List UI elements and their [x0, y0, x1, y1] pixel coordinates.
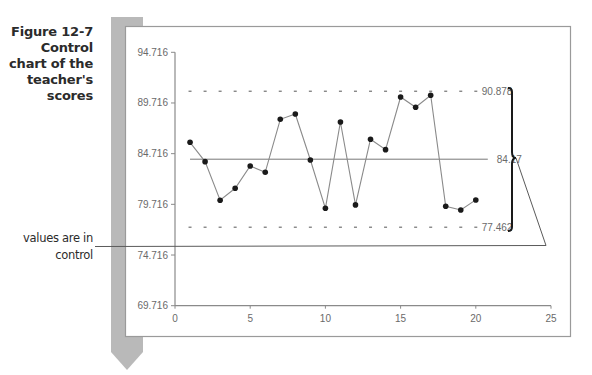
data-point-marker [458, 207, 464, 213]
data-point-marker [473, 197, 479, 203]
data-point-marker [217, 197, 223, 203]
y-tick-label: 94.716 [137, 47, 168, 58]
y-tick-label: 79.716 [137, 199, 168, 210]
data-point-marker [323, 205, 329, 211]
data-point-marker [232, 185, 238, 191]
y-tick-label: 69.716 [137, 300, 168, 311]
chart-frame [126, 27, 571, 337]
data-point-marker [368, 136, 374, 142]
data-point-marker [277, 116, 283, 122]
data-point-marker [428, 92, 434, 98]
data-point-marker [247, 163, 253, 169]
data-point-marker [398, 94, 404, 100]
x-tick-label: 25 [545, 313, 557, 324]
control-chart: 69.71674.71679.71684.71689.71694.7160510… [0, 0, 592, 375]
data-point-marker [383, 147, 389, 153]
x-tick-label: 20 [470, 313, 482, 324]
data-point-marker [443, 203, 449, 209]
x-tick-label: 5 [247, 313, 253, 324]
y-tick-label: 74.716 [137, 250, 168, 261]
data-point-marker [293, 111, 299, 117]
data-point-marker [187, 139, 193, 145]
y-tick-label: 89.716 [137, 97, 168, 108]
x-tick-label: 15 [395, 313, 407, 324]
x-tick-label: 0 [172, 313, 178, 324]
data-point-marker [353, 202, 359, 208]
data-point-marker [338, 119, 344, 125]
y-tick-label: 84.716 [137, 148, 168, 159]
data-point-marker [202, 159, 208, 165]
data-point-marker [262, 169, 268, 175]
center-line-label: 84.17 [497, 154, 522, 165]
data-point-marker [413, 104, 419, 110]
x-tick-label: 10 [320, 313, 332, 324]
data-point-marker [308, 157, 314, 163]
